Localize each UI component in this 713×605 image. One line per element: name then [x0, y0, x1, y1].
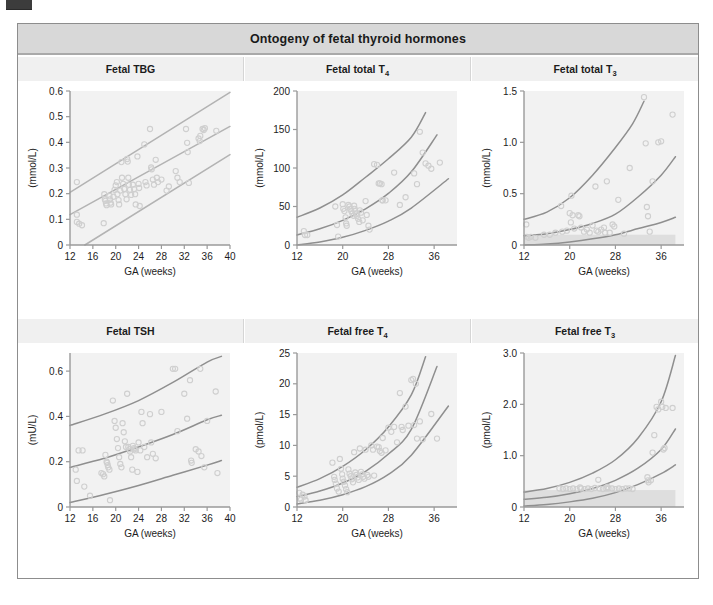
- y-tick-label: 0.2: [49, 456, 63, 467]
- x-tick-label: 16: [87, 513, 99, 524]
- x-tick-label: 36: [656, 251, 668, 262]
- y-tick-label: 1.5: [503, 86, 517, 97]
- plot-area: 01.02.03.012202836GA (weeks)(pmol/L): [472, 343, 698, 578]
- x-tick-label: 36: [656, 513, 668, 524]
- x-tick-label: 20: [337, 513, 349, 524]
- y-tick-label: 0: [511, 502, 517, 513]
- panel-title-band: Fetal total T3: [472, 57, 698, 81]
- y-tick-label: 20: [279, 378, 291, 389]
- figure-title-band: Ontogeny of fetal thyroid hormones: [18, 24, 698, 55]
- x-tick-label: 12: [64, 251, 76, 262]
- y-tick-label: 15: [279, 409, 291, 420]
- y-tick-label: 0: [57, 240, 63, 251]
- chart-fetal-free-t4: 051015202512202836GA (weeks)(pmol/L): [245, 343, 471, 578]
- plot-background: [524, 353, 684, 507]
- y-tick-label: 0.1: [49, 214, 63, 225]
- x-tick-label: 12: [291, 251, 303, 262]
- y-tick-label: 0.3: [49, 163, 63, 174]
- y-axis-title: (pmol/L): [254, 412, 265, 449]
- x-axis-title: GA (weeks): [351, 266, 403, 277]
- plot-area: 00.10.20.30.40.50.61216202428323640GA (w…: [18, 81, 244, 316]
- x-tick-label: 28: [610, 513, 622, 524]
- x-tick-label: 12: [64, 513, 76, 524]
- panel-title: Fetal TBG: [106, 63, 156, 75]
- y-tick-label: 150: [273, 124, 290, 135]
- x-tick-label: 36: [429, 513, 441, 524]
- panel-title: Fetal total T4: [326, 63, 389, 75]
- panel-grid: Fetal TBG 00.10.20.30.40.50.612162024283…: [18, 57, 698, 578]
- x-tick-label: 32: [179, 513, 191, 524]
- plot-background: [70, 353, 230, 507]
- panel-title: Fetal TSH: [106, 325, 154, 337]
- x-tick-label: 20: [564, 513, 576, 524]
- x-tick-label: 16: [87, 251, 99, 262]
- y-tick-label: 0: [57, 502, 63, 513]
- panel-title: Fetal total T3: [553, 63, 616, 75]
- y-tick-label: 0.5: [503, 188, 517, 199]
- y-tick-label: 0: [284, 240, 290, 251]
- x-tick-label: 12: [518, 251, 530, 262]
- panel-fetal-free-t3: Fetal free T3 01.02.03.012202836GA (week…: [472, 319, 698, 578]
- y-tick-label: 0.4: [49, 411, 63, 422]
- x-tick-label: 12: [518, 513, 530, 524]
- panel-title-band: Fetal free T4: [245, 319, 471, 343]
- x-axis-title: GA (weeks): [124, 528, 176, 539]
- y-tick-label: 200: [273, 86, 290, 97]
- x-tick-label: 28: [156, 513, 168, 524]
- x-axis-title: GA (weeks): [578, 266, 630, 277]
- y-tick-label: 100: [273, 163, 290, 174]
- x-tick-label: 28: [383, 513, 395, 524]
- panel-fetal-total-t3: Fetal total T3 00.51.01.512202836GA (wee…: [472, 57, 698, 316]
- chart-fetal-total-t3: 00.51.01.512202836GA (weeks)(mmol/L): [472, 81, 698, 316]
- x-tick-label: 36: [202, 251, 214, 262]
- x-tick-label: 28: [156, 251, 168, 262]
- chart-fetal-free-t3: 01.02.03.012202836GA (weeks)(pmol/L): [472, 343, 698, 578]
- x-tick-label: 24: [133, 513, 145, 524]
- x-axis-title: GA (weeks): [124, 266, 176, 277]
- panel-title-band: Fetal TBG: [18, 57, 244, 81]
- x-tick-label: 40: [224, 251, 236, 262]
- y-tick-label: 0: [284, 502, 290, 513]
- x-tick-label: 36: [202, 513, 214, 524]
- x-tick-label: 40: [224, 513, 236, 524]
- y-axis-title: (mU/L): [27, 415, 38, 446]
- y-axis-title: (pmol/L): [481, 412, 492, 449]
- y-tick-label: 3.0: [503, 348, 517, 359]
- panel-title-band: Fetal total T4: [245, 57, 471, 81]
- panel-title-band: Fetal free T3: [472, 319, 698, 343]
- x-tick-label: 12: [291, 513, 303, 524]
- x-tick-label: 20: [564, 251, 576, 262]
- plot-area: 05010015020012202836GA (weeks)(mmol/L): [245, 81, 471, 316]
- y-axis-title: (mmol/L): [27, 148, 38, 187]
- panel-row-bottom: Fetal TSH 00.20.40.61216202428323640GA (…: [18, 319, 698, 578]
- figure-title: Ontogeny of fetal thyroid hormones: [250, 32, 466, 46]
- y-tick-label: 1.0: [503, 137, 517, 148]
- panel-title-band: Fetal TSH: [18, 319, 244, 343]
- y-tick-label: 0.6: [49, 86, 63, 97]
- panel-fetal-total-t4: Fetal total T4 05010015020012202836GA (w…: [245, 57, 471, 316]
- x-tick-label: 36: [429, 251, 441, 262]
- x-axis-title: GA (weeks): [578, 528, 630, 539]
- y-tick-label: 0.4: [49, 137, 63, 148]
- chart-fetal-total-t4: 05010015020012202836GA (weeks)(mmol/L): [245, 81, 471, 316]
- y-tick-label: 50: [279, 201, 291, 212]
- y-tick-label: 25: [279, 348, 291, 359]
- x-axis-title: GA (weeks): [351, 528, 403, 539]
- y-axis-title: (mmol/L): [481, 148, 492, 187]
- x-tick-label: 20: [337, 251, 349, 262]
- x-tick-label: 28: [383, 251, 395, 262]
- panel-fetal-tbg: Fetal TBG 00.10.20.30.40.50.612162024283…: [18, 57, 244, 316]
- plot-area: 051015202512202836GA (weeks)(pmol/L): [245, 343, 471, 578]
- y-tick-label: 0.6: [49, 366, 63, 377]
- panel-fetal-free-t4: Fetal free T4 051015202512202836GA (week…: [245, 319, 471, 578]
- y-axis-title: (mmol/L): [254, 148, 265, 187]
- chart-fetal-tsh: 00.20.40.61216202428323640GA (weeks)(mU/…: [18, 343, 244, 578]
- x-tick-label: 20: [110, 251, 122, 262]
- plot-area: 00.20.40.61216202428323640GA (weeks)(mU/…: [18, 343, 244, 578]
- panel-title: Fetal free T4: [327, 325, 387, 337]
- scan-artifact: [6, 0, 32, 10]
- y-tick-label: 0.5: [49, 111, 63, 122]
- x-tick-label: 32: [179, 251, 191, 262]
- x-tick-label: 24: [133, 251, 145, 262]
- plot-background: [524, 91, 684, 245]
